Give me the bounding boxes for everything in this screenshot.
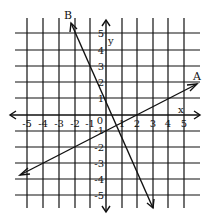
svg-text:-3: -3 <box>94 158 104 169</box>
svg-text:2: 2 <box>98 77 104 88</box>
svg-text:0: 0 <box>97 115 103 126</box>
x-tick-labels: -5-4-3 -2-10 123 45 <box>22 115 187 129</box>
svg-text:-5: -5 <box>22 118 32 129</box>
x-axis-label: x <box>178 104 184 115</box>
svg-text:-4: -4 <box>38 118 48 129</box>
svg-text:-2: -2 <box>70 118 80 129</box>
svg-text:2: 2 <box>134 118 140 129</box>
line-b-label: B <box>64 9 72 22</box>
svg-text:4: 4 <box>98 45 104 56</box>
svg-text:3: 3 <box>98 61 104 72</box>
svg-text:-3: -3 <box>54 118 64 129</box>
svg-text:-2: -2 <box>94 142 104 153</box>
svg-text:-4: -4 <box>94 174 104 185</box>
axes <box>10 20 200 212</box>
svg-text:-1: -1 <box>85 118 95 129</box>
svg-text:1: 1 <box>98 93 104 104</box>
svg-text:3: 3 <box>150 118 156 129</box>
coordinate-plane: B A y x 543 21 -1-2-3 -4-5 -5-4-3 -2-10 … <box>0 0 210 222</box>
y-axis-label: y <box>107 35 114 46</box>
svg-text:5: 5 <box>98 28 104 39</box>
svg-text:5: 5 <box>181 118 187 129</box>
svg-text:4: 4 <box>165 118 171 129</box>
svg-text:-5: -5 <box>94 190 104 201</box>
svg-text:-1: -1 <box>94 125 104 136</box>
grid <box>15 18 200 208</box>
svg-text:1: 1 <box>119 118 125 129</box>
line-a-label: A <box>192 70 202 83</box>
